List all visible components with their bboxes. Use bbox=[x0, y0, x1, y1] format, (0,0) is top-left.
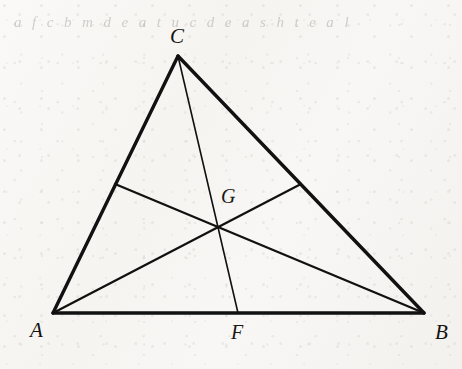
segment-layer bbox=[53, 56, 424, 313]
triangle-side-AC bbox=[53, 56, 178, 313]
median-segment-AD bbox=[53, 184, 301, 313]
triangle-side-CB bbox=[178, 56, 424, 313]
median-segment-BE bbox=[115, 184, 424, 313]
geometry-figure: a f c b m d e a t u c d e a s h t e a l … bbox=[0, 0, 462, 369]
point-label-f: F bbox=[231, 322, 243, 342]
vertex-label-c: C bbox=[170, 26, 184, 47]
centroid-label-g: G bbox=[221, 186, 235, 206]
vertex-label-a: A bbox=[30, 320, 43, 341]
vertex-label-b: B bbox=[435, 322, 448, 343]
